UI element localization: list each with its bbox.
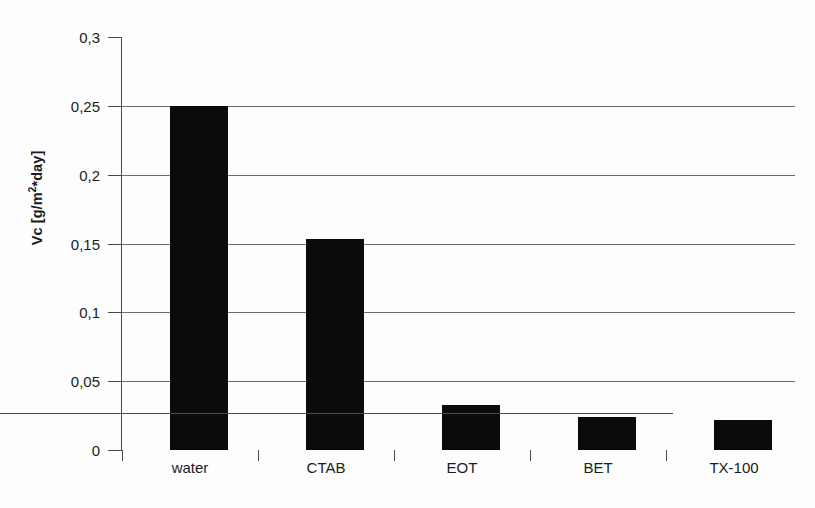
plot-area <box>122 37 795 450</box>
y-axis-tick-label: 0,2 <box>40 166 100 183</box>
bar-ctab <box>306 239 364 450</box>
y-axis-tick <box>108 244 122 245</box>
y-axis-tick <box>108 175 122 176</box>
y-axis-tick <box>108 106 122 107</box>
x-axis-label-water: water <box>122 459 258 476</box>
y-axis-tick-label: 0,25 <box>40 97 100 114</box>
y-axis-tick <box>108 381 122 382</box>
bar-bet <box>578 417 636 450</box>
x-axis-line <box>0 413 673 414</box>
x-axis-label-bet: BET <box>530 459 666 476</box>
bar-water <box>170 106 228 450</box>
bar-eot <box>442 405 500 450</box>
y-axis-tick <box>108 37 122 38</box>
y-axis-tick-label: 0 <box>40 442 100 459</box>
y-axis-tick-label: 0,15 <box>40 235 100 252</box>
y-axis-tick <box>108 312 122 313</box>
x-axis-label-ctab: CTAB <box>258 459 394 476</box>
y-axis-tick-label: 0,05 <box>40 373 100 390</box>
x-axis-label-tx-100: TX-100 <box>666 459 802 476</box>
bar-chart: Vc [g/m2*day] 00,050,10,150,20,250,3 wat… <box>0 0 815 508</box>
x-axis-label-eot: EOT <box>394 459 530 476</box>
y-axis-tick-label: 0,3 <box>40 29 100 46</box>
y-axis-tick <box>108 450 122 451</box>
y-axis-title-exponent: 2 <box>27 187 38 193</box>
y-axis-tick-label: 0,1 <box>40 304 100 321</box>
x-axis-tick-origin <box>122 450 123 461</box>
bar-tx-100 <box>714 420 772 450</box>
